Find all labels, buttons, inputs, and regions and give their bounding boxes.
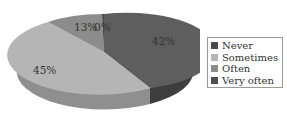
legend-item-very-often: Very often — [211, 75, 279, 87]
legend-swatch-very-often — [211, 77, 218, 84]
legend-item-never: Never — [211, 40, 279, 52]
legend-swatch-often — [211, 65, 218, 72]
legend-label: Often — [222, 63, 250, 74]
legend-label: Never — [222, 40, 253, 51]
label-sometimes: 45% — [33, 64, 56, 76]
legend-swatch-never — [211, 42, 218, 49]
label-very-often: 42% — [152, 35, 175, 47]
legend-item-sometimes: Sometimes — [211, 52, 279, 64]
legend-item-often: Often — [211, 63, 279, 75]
label-never: 0% — [94, 21, 111, 33]
pie-chart: 13% 0% 42% 45% — [0, 0, 200, 123]
legend-swatch-sometimes — [211, 54, 218, 61]
legend-label: Very often — [222, 75, 274, 86]
chart-legend: Never Sometimes Often Very often — [207, 37, 283, 88]
legend-label: Sometimes — [222, 52, 278, 63]
